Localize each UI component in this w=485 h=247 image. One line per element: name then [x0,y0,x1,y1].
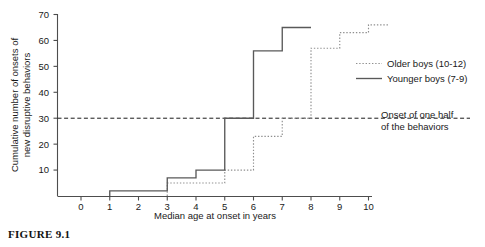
y-tick-label: 40 [38,87,49,98]
y-tick-label: 70 [38,9,49,20]
legend-label-older: Older boys (10-12) [387,58,466,69]
y-axis-label: Cumulative number of onsets of new disru… [9,38,32,172]
x-axis-label: Median age at onset in years [154,210,276,221]
x-tick-label: 9 [337,201,342,212]
y-tick-group: 10203040506070 [38,9,57,176]
y-tick-label: 50 [38,61,49,72]
legend-label-younger: Younger boys (7-9) [387,73,467,84]
figure-caption: FIGURE 9.1 [8,228,70,240]
y-tick-label: 60 [38,35,49,46]
x-tick-label: 8 [308,201,313,212]
chart-svg: 10203040506070 012345678910 Cumulative n… [0,0,485,247]
legend: Older boys (10-12) Younger boys (7-9) [356,58,467,84]
series-line-younger-boys [110,27,311,196]
y-axis-label-line2: new disruptive behaviors [21,52,32,157]
reference-annotation-line2: of the behaviors [381,121,449,132]
x-tick-label: 0 [78,201,83,212]
y-tick-label: 30 [38,113,49,124]
x-tick-label: 10 [363,201,374,212]
x-tick-label: 2 [136,201,141,212]
figure-container: 10203040506070 012345678910 Cumulative n… [0,0,485,247]
y-tick-label: 20 [38,139,49,150]
reference-annotation-line1: Onset of one half [381,109,454,120]
x-tick-label: 1 [107,201,112,212]
reference-line-annotation: Onset of one half of the behaviors [381,109,454,132]
x-tick-label: 7 [280,201,285,212]
y-axis-label-line1: Cumulative number of onsets of [9,38,20,172]
axes-group [58,14,373,197]
y-tick-label: 10 [38,164,49,175]
